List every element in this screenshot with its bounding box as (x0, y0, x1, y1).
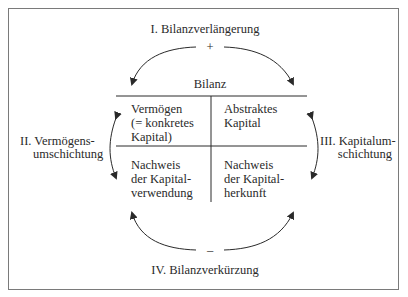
bottom-label: IV. Bilanzverkürzung (140, 263, 270, 277)
top-label: I. Bilanzverlängerung (140, 22, 270, 36)
right-label-line1: III. Kapitalum- (320, 134, 392, 148)
cell-top-left: Vermögen (= konkretes Kapital) (131, 102, 194, 144)
right-label-line2: schichtung (320, 147, 392, 161)
cell-bottom-right: Nachweis der Kapital- herkunft (224, 158, 284, 200)
left-label-line1: II. Vermögens- (20, 134, 95, 148)
cell-top-right: Abstraktes Kapital (224, 102, 277, 130)
plus-sign: + (200, 40, 220, 54)
arrow-right-vertical (312, 118, 318, 178)
minus-sign: – (200, 243, 220, 257)
arrow-left-vertical (110, 118, 116, 178)
arrow-bottom-right (224, 213, 293, 250)
balance-title: Bilanz (180, 77, 240, 91)
left-label-line2: umschichtung (33, 147, 103, 161)
arrow-bottom-left (132, 213, 196, 250)
cell-bottom-left: Nachweis der Kapital- verwendung (131, 158, 193, 200)
